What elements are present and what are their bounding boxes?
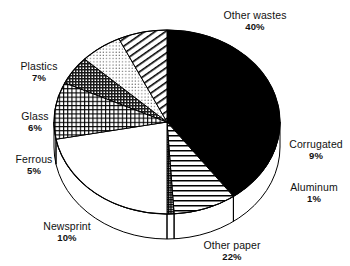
slice-label-other-wastes: Other wastes 40% — [196, 10, 314, 32]
slice-label-name: Plastics — [2, 61, 76, 73]
slice-label-percent: 22% — [185, 252, 279, 263]
slice-label-percent: 40% — [196, 22, 314, 33]
slice-label-percent: 9% — [283, 151, 349, 162]
slice-label-plastics: Plastics 7% — [2, 61, 76, 83]
slice-label-name: Aluminum — [281, 182, 347, 194]
slice-label-name: Other wastes — [196, 10, 314, 22]
slice-label-aluminum: Aluminum 1% — [281, 182, 347, 204]
slice-label-percent: 5% — [0, 166, 68, 177]
slice-label-name: Corrugated — [283, 139, 349, 151]
slice-label-percent: 10% — [24, 233, 110, 244]
pie-slices-group — [54, 30, 280, 214]
slice-label-name: Newsprint — [24, 221, 110, 233]
slice-label-percent: 1% — [281, 194, 347, 205]
slice-label-name: Glass — [2, 111, 68, 123]
slice-label-glass: Glass 6% — [2, 111, 68, 133]
slice-label-newsprint: Newsprint 10% — [24, 221, 110, 243]
slice-label-percent: 7% — [2, 73, 76, 84]
slice-label-other-paper: Other paper 22% — [185, 240, 279, 262]
slice-label-name: Other paper — [185, 240, 279, 252]
slice-label-name: Ferrous — [0, 154, 68, 166]
slice-label-ferrous: Ferrous 5% — [0, 154, 68, 176]
pie-chart-figure: Other wastes 40% Plastics 7% Glass 6% Fe… — [0, 0, 350, 266]
slice-label-percent: 6% — [2, 123, 68, 134]
slice-label-corrugated: Corrugated 9% — [283, 139, 349, 161]
